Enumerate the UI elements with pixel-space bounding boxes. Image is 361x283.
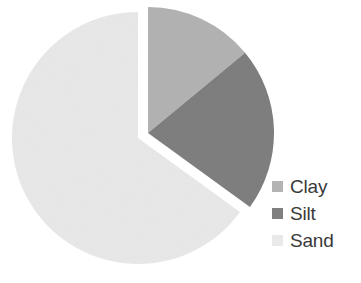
square-swatch-icon [272, 208, 283, 219]
legend-label-sand: Sand [290, 231, 334, 250]
square-swatch-icon [272, 235, 283, 246]
legend-item-sand[interactable]: Sand [272, 230, 358, 251]
legend-label-clay: Clay [290, 177, 327, 196]
square-swatch-icon [272, 181, 283, 192]
chart-legend: Clay Silt Sand [272, 176, 358, 251]
legend-item-silt[interactable]: Silt [272, 203, 358, 224]
pie-chart-figure: Clay Silt Sand [0, 0, 361, 283]
legend-label-silt: Silt [290, 204, 316, 223]
legend-item-clay[interactable]: Clay [272, 176, 358, 197]
